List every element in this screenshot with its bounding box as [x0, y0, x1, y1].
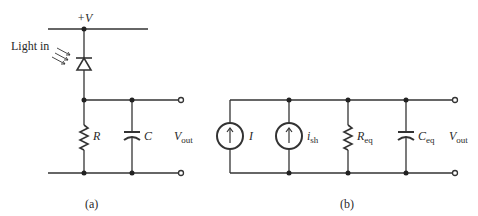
- resistor-r-icon: [80, 125, 88, 150]
- ceq-main: C: [418, 129, 426, 143]
- source-i-label: I: [249, 130, 253, 142]
- light-arrows-icon: [52, 48, 70, 64]
- vout-sub-a: out: [181, 135, 193, 145]
- ceq-sub: eq: [426, 135, 435, 145]
- junction-dots: [82, 27, 409, 176]
- light-in-label: Light in: [11, 40, 49, 52]
- ish-sub: sh: [310, 135, 318, 145]
- capacitor-c-label: C: [144, 130, 152, 142]
- vout-label-b: Vout: [449, 130, 468, 145]
- output-terminal-top-b: [453, 98, 458, 103]
- req-label: Req: [357, 130, 373, 145]
- panel-a-circuit: [48, 29, 184, 176]
- output-terminal-bottom-a: [179, 171, 184, 176]
- vout-label-a: Vout: [174, 130, 193, 145]
- resistor-r-label: R: [93, 130, 100, 142]
- vout-sub-b: out: [456, 135, 468, 145]
- output-terminal-bottom-b: [453, 171, 458, 176]
- caption-b: (b): [340, 198, 354, 210]
- circuit-diagram: [0, 0, 478, 216]
- req-sub: eq: [364, 135, 373, 145]
- current-source-i-icon: [217, 123, 243, 149]
- resistor-req-icon: [344, 125, 352, 150]
- photodiode-icon: [76, 58, 92, 70]
- ceq-label: Ceq: [418, 130, 435, 145]
- current-source-ish-icon: [276, 123, 302, 149]
- source-ish-label: ish: [307, 130, 318, 145]
- caption-a: (a): [85, 198, 98, 210]
- supply-label: +V: [77, 12, 92, 24]
- output-terminal-top-a: [179, 98, 184, 103]
